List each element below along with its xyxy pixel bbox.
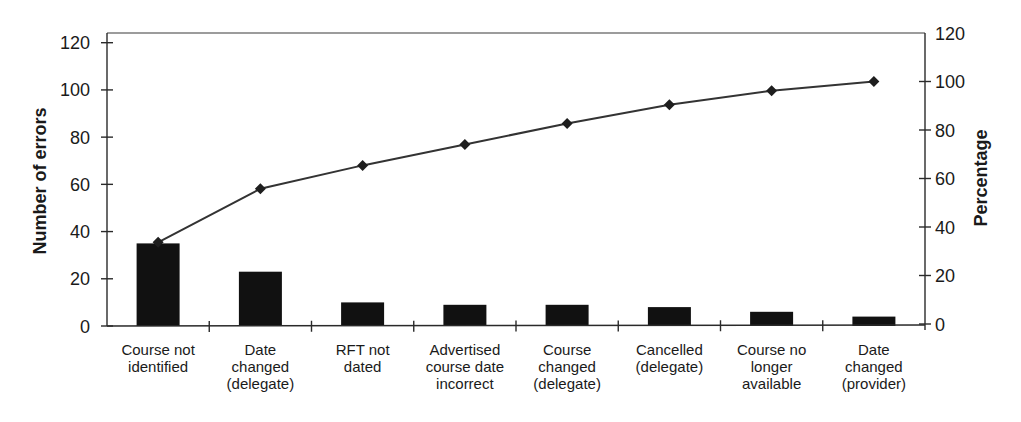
category-label: Coursechanged(delegate) <box>533 341 601 392</box>
bar <box>137 243 180 326</box>
left-axis-tick-label: 100 <box>60 80 90 100</box>
diamond-marker <box>868 76 879 87</box>
cumulative-line <box>158 82 874 243</box>
left-axis-tick-label: 40 <box>70 222 90 242</box>
right-axis-tick-label: 100 <box>935 72 965 92</box>
bar <box>341 302 384 326</box>
left-axis-tick-label: 60 <box>70 175 90 195</box>
left-axis-tick-label: 120 <box>60 33 90 53</box>
diamond-marker <box>766 85 777 96</box>
category-label: Datechanged(delegate) <box>227 341 295 392</box>
right-axis-tick-label: 20 <box>935 266 955 286</box>
right-axis-tick-label: 0 <box>935 315 945 335</box>
diamond-marker <box>664 99 675 110</box>
right-axis-title: Percentage <box>971 129 991 226</box>
diamond-marker <box>255 183 266 194</box>
bar <box>239 272 282 326</box>
diamond-marker <box>459 139 470 150</box>
left-y-axis: 020406080100120 <box>60 33 113 337</box>
left-axis-tick-label: 20 <box>70 269 90 289</box>
category-label: Datechanged(provider) <box>842 341 906 392</box>
right-axis-tick-label: 80 <box>935 121 955 141</box>
diamond-marker <box>357 160 368 171</box>
pareto-chart: 020406080100120 020406080100120 Course n… <box>0 0 1021 422</box>
category-label: Course nolongeravailable <box>737 341 806 392</box>
right-axis-tick-label: 120 <box>935 24 965 44</box>
category-label: RFT notdated <box>336 341 391 375</box>
bar <box>648 307 691 326</box>
category-label: Advertisedcourse dateincorrect <box>426 341 504 392</box>
right-axis-tick-label: 40 <box>935 218 955 238</box>
cumulative-line-series <box>153 76 880 248</box>
bar-series <box>137 243 896 326</box>
category-labels: Course notidentifiedDatechanged(delegate… <box>121 341 906 392</box>
right-axis-tick-label: 60 <box>935 169 955 189</box>
left-axis-tick-label: 80 <box>70 128 90 148</box>
x-axis <box>107 320 925 332</box>
bar <box>546 305 589 326</box>
right-y-axis: 020406080100120 <box>919 24 965 335</box>
diamond-marker <box>562 118 573 129</box>
bar <box>750 312 793 326</box>
left-axis-title: Number of errors <box>30 107 50 254</box>
category-label: Course notidentified <box>121 341 195 375</box>
left-axis-tick-label: 0 <box>80 317 90 337</box>
category-label: Cancelled(delegate) <box>636 341 704 375</box>
bar <box>443 305 486 326</box>
